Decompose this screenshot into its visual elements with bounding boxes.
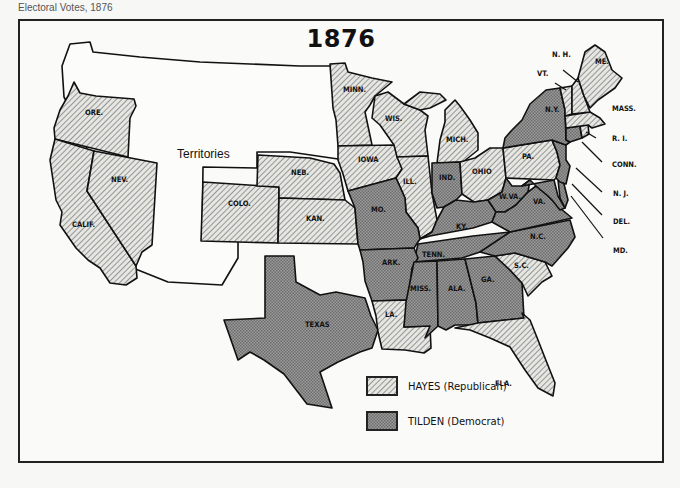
- label-miss: MISS.: [410, 284, 431, 293]
- label-ri: R. I.: [612, 134, 627, 143]
- label-calif: CALIF.: [72, 220, 95, 229]
- label-tenn: TENN.: [422, 250, 445, 259]
- label-neb: NEB.: [291, 168, 309, 177]
- label-del: DEL.: [613, 217, 630, 226]
- stipple-swatch-icon: [366, 411, 398, 431]
- legend-label-republican: HAYES (Republican): [408, 381, 507, 392]
- label-ill: ILL.: [403, 177, 417, 186]
- us-election-map: Territories ORE. CALIF. NEV. COLO. NEB. …: [0, 0, 680, 488]
- label-ore: ORE.: [85, 108, 103, 117]
- label-ind: IND.: [439, 173, 455, 182]
- label-vt: VT.: [537, 69, 548, 78]
- label-wva: W.VA.: [499, 192, 521, 201]
- legend-label-democrat: TILDEN (Democrat): [408, 416, 504, 427]
- label-mo: MO.: [371, 205, 386, 214]
- state-colo: [201, 182, 279, 243]
- map-legend: HAYES (Republican) TILDEN (Democrat): [366, 376, 507, 446]
- label-sc: S.C.: [514, 261, 529, 270]
- leader-nh: [563, 70, 578, 82]
- leader-nj: [576, 168, 602, 192]
- label-ny: N.Y.: [545, 105, 559, 114]
- label-nc: N.C.: [530, 232, 546, 241]
- label-wis: WIS.: [385, 114, 402, 123]
- label-ark: ARK.: [382, 258, 400, 267]
- label-va: VA.: [533, 197, 546, 206]
- legend-item-republican: HAYES (Republican): [366, 376, 507, 396]
- label-mass: MASS.: [612, 104, 636, 113]
- hatch-swatch-icon: [366, 376, 398, 396]
- label-ala: ALA.: [448, 284, 465, 293]
- label-ga: GA.: [481, 275, 494, 284]
- state-me: [578, 45, 622, 108]
- label-la: LA.: [385, 310, 397, 319]
- state-texas: [224, 256, 378, 408]
- label-texas: TEXAS: [305, 320, 330, 329]
- leader-md: [571, 196, 603, 238]
- label-nev: NEV.: [111, 175, 128, 184]
- label-pa: PA.: [522, 152, 534, 161]
- label-iowa: IOWA: [358, 155, 379, 164]
- label-mich: MICH.: [446, 135, 468, 144]
- label-me: ME.: [595, 57, 609, 66]
- territories-label: Territories: [177, 147, 230, 161]
- label-kan: KAN.: [306, 214, 325, 223]
- leader-conn: [582, 142, 602, 162]
- label-nh: N. H.: [552, 50, 571, 59]
- state-ri: [580, 125, 589, 138]
- state-ny: [503, 88, 570, 148]
- label-ohio: OHIO: [472, 167, 492, 176]
- legend-item-democrat: TILDEN (Democrat): [366, 411, 507, 431]
- label-conn: CONN.: [612, 160, 637, 169]
- label-md: MD.: [613, 246, 628, 255]
- label-minn: MINN.: [343, 85, 366, 94]
- label-colo: COLO.: [228, 199, 251, 208]
- label-nj: N. J.: [613, 189, 629, 198]
- label-ky: KY.: [456, 222, 467, 231]
